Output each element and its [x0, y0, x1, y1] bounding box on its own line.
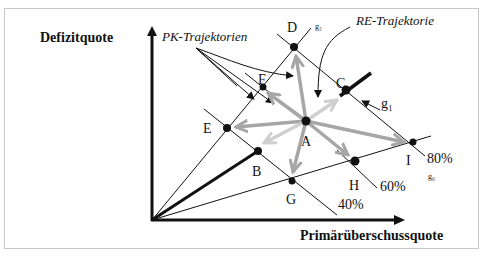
point-I: [410, 139, 417, 146]
pct-80-label: 80%: [427, 151, 453, 166]
point-H: [351, 157, 360, 166]
x-axis-label: Primärüberschussquote: [300, 228, 443, 243]
label-G: G: [286, 192, 296, 207]
g1-label: g₁: [381, 96, 393, 111]
pk-pointer-lines: [196, 48, 293, 103]
label-C: C: [336, 76, 345, 91]
point-A: [302, 117, 311, 126]
label-E: E: [203, 121, 212, 136]
label-F: F: [258, 72, 266, 87]
pk-trajectories-label: PK-Trajektorien: [161, 29, 247, 44]
y-axis-label: Defizitquote: [40, 30, 113, 45]
label-D: D: [287, 20, 297, 35]
label-H: H: [349, 178, 359, 193]
re-trajectory-label: RE-Trajektorie: [355, 13, 434, 28]
label-A: A: [301, 134, 312, 149]
pct-60-label: 60%: [380, 179, 406, 194]
pct-40-label: 40%: [338, 197, 364, 212]
diagram-canvas: Defizitquote Primärüberschussquote PK-Tr…: [0, 0, 486, 256]
point-D: [290, 43, 298, 51]
g2-label: g₂: [315, 22, 322, 31]
point-G: [289, 178, 296, 185]
point-E: [223, 124, 231, 132]
x-axis: [151, 215, 405, 225]
label-B: B: [252, 164, 261, 179]
label-I: I: [406, 153, 411, 168]
point-B: [254, 147, 262, 155]
re-thick-line: [152, 151, 258, 220]
g1-pointer: [362, 101, 380, 110]
y-axis: [147, 26, 157, 221]
g0-label: g₀: [428, 172, 435, 181]
iso-line-80-g1: [277, 34, 425, 156]
